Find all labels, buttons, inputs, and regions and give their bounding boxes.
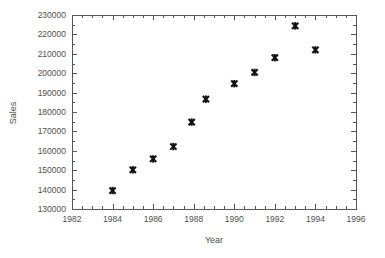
data-point-marker bbox=[292, 22, 298, 29]
data-point-marker bbox=[312, 46, 318, 53]
x-tick-label: 1982 bbox=[63, 214, 82, 224]
y-axis-tick-labels: 1300001400001500001600001700001800001900… bbox=[38, 10, 67, 214]
data-point-marker bbox=[130, 166, 136, 173]
data-point-marker bbox=[170, 143, 176, 150]
data-point-marker bbox=[203, 95, 209, 102]
x-tick-label: 1994 bbox=[306, 214, 325, 224]
y-tick-label: 130000 bbox=[38, 204, 67, 214]
data-point-marker bbox=[231, 80, 237, 87]
y-tick-label: 160000 bbox=[38, 146, 67, 156]
y-axis-ticks bbox=[72, 16, 356, 210]
y-axis-title: Sales bbox=[8, 101, 18, 124]
x-axis-title: Year bbox=[205, 235, 223, 245]
data-point-marker bbox=[251, 69, 257, 76]
data-point-marker bbox=[272, 54, 278, 61]
data-point-marker bbox=[150, 155, 156, 162]
x-tick-label: 1988 bbox=[184, 214, 203, 224]
data-point-marker bbox=[109, 187, 115, 194]
data-point-marker bbox=[189, 118, 195, 125]
x-tick-label: 1986 bbox=[144, 214, 163, 224]
x-tick-label: 1992 bbox=[265, 214, 284, 224]
x-tick-label: 1990 bbox=[225, 214, 244, 224]
scatter-plot-figure: 19821984198619881990199219941996 1300001… bbox=[0, 0, 385, 258]
plot-canvas: 19821984198619881990199219941996 1300001… bbox=[0, 0, 385, 258]
x-tick-label: 1984 bbox=[103, 214, 122, 224]
y-tick-label: 150000 bbox=[38, 165, 67, 175]
y-tick-label: 210000 bbox=[38, 49, 67, 59]
x-axis-ticks bbox=[73, 15, 357, 209]
x-axis-tick-labels: 19821984198619881990199219941996 bbox=[63, 214, 366, 224]
y-tick-label: 180000 bbox=[38, 107, 67, 117]
y-tick-label: 190000 bbox=[38, 88, 67, 98]
plot-frame bbox=[73, 16, 357, 210]
y-tick-label: 230000 bbox=[38, 10, 67, 20]
y-tick-label: 200000 bbox=[38, 68, 67, 78]
y-tick-label: 140000 bbox=[38, 185, 67, 195]
y-tick-label: 220000 bbox=[38, 29, 67, 39]
y-tick-label: 170000 bbox=[38, 126, 67, 136]
data-markers bbox=[109, 22, 318, 194]
x-tick-label: 1996 bbox=[347, 214, 366, 224]
